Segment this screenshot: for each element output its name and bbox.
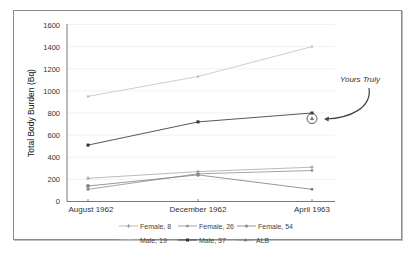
legend-item-female-8[interactable]: Female, 8 (119, 223, 171, 230)
legend: Female, 8 Female, 26 Female, 54 Male, 19… (119, 223, 293, 244)
svg-text:Male, 37: Male, 37 (199, 237, 226, 244)
series-male-19 (87, 45, 313, 97)
svg-text:Male, 19: Male, 19 (140, 237, 167, 244)
annotation-text: Yours Truly (340, 75, 381, 84)
line-chart: 0 200 400 600 800 1000 1200 1400 1600 To… (0, 0, 412, 261)
y-tick-labels: 0 200 400 600 800 1000 1200 1400 1600 (43, 21, 60, 207)
x-tick: December 1962 (170, 205, 227, 214)
series-female-26 (87, 169, 314, 191)
annotation-yours-truly: Yours Truly (324, 75, 381, 122)
y-tick: 1600 (43, 21, 60, 30)
y-tick: 400 (47, 153, 60, 162)
series-male-37 (87, 112, 314, 147)
svg-text:ALB: ALB (256, 237, 270, 244)
legend-item-male-37[interactable]: Male, 37 (178, 237, 226, 244)
y-tick: 600 (47, 131, 60, 140)
legend-item-female-26[interactable]: Female, 26 (178, 223, 234, 230)
series-female-54 (86, 173, 313, 191)
legend-item-alb[interactable]: ALB (237, 237, 270, 244)
legend-item-female-54[interactable]: Female, 54 (237, 223, 293, 230)
legend-item-male-19[interactable]: Male, 19 (119, 237, 167, 244)
svg-text:Female, 8: Female, 8 (140, 223, 171, 230)
y-tick: 200 (47, 175, 60, 184)
x-tick: April 1963 (294, 205, 331, 214)
y-tick: 1200 (43, 65, 60, 74)
series-alb (307, 114, 317, 124)
y-tick: 1000 (43, 87, 60, 96)
gridlines (67, 25, 335, 180)
y-tick: 1400 (43, 43, 60, 52)
svg-text:Female, 54: Female, 54 (258, 223, 293, 230)
y-tick: 0 (56, 197, 60, 206)
y-tick: 800 (47, 109, 60, 118)
y-axis-title: Total Body Burden (Bq) (26, 69, 36, 157)
svg-text:Female, 26: Female, 26 (199, 223, 234, 230)
x-tick-labels: August 1962 December 1962 April 1963 (69, 205, 331, 214)
series-female-8 (86, 165, 314, 180)
x-tick: August 1962 (69, 205, 114, 214)
